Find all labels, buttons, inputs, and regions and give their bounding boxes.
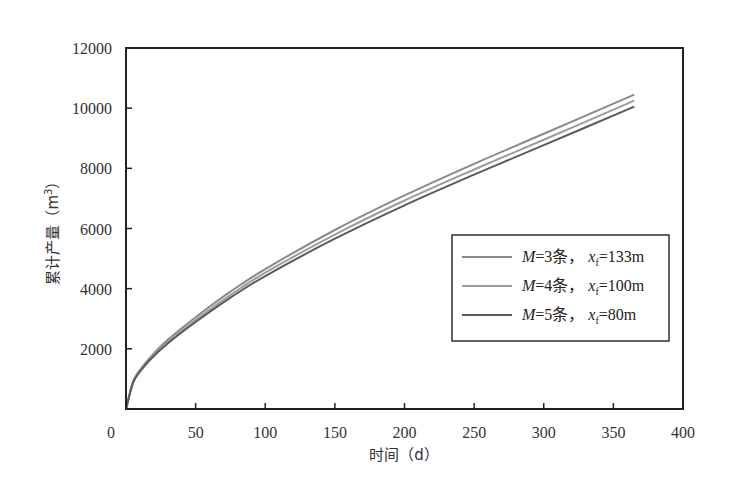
y-tick-label: 6000 <box>80 221 112 238</box>
y-tick-label: 12000 <box>72 40 112 57</box>
x-tick-label: 300 <box>532 424 556 441</box>
x-tick-label: 200 <box>393 424 417 441</box>
plot-frame <box>126 48 683 409</box>
y-tick-label: 2000 <box>80 341 112 358</box>
y-tick-label: 4000 <box>80 281 112 298</box>
x-tick-label: 150 <box>323 424 347 441</box>
y-tick-label: 10000 <box>72 100 112 117</box>
y-axis-title: 累计产量（m3） <box>43 174 62 285</box>
x-tick-label: 250 <box>462 424 486 441</box>
x-tick-labels: 050100150200250300350400 <box>107 424 695 441</box>
x-tick-label: 0 <box>107 424 115 441</box>
cumulative-production-chart: 050100150200250300350400 200040006000800… <box>0 0 729 496</box>
legend: M=3条，xf=133mM=4条，xf=100mM=5条，xf=80m <box>452 235 669 341</box>
x-tick-label: 50 <box>188 424 204 441</box>
y-tick-labels: 20004000600080001000012000 <box>72 40 112 358</box>
x-tick-label: 400 <box>671 424 695 441</box>
x-tick-label: 100 <box>253 424 277 441</box>
x-axis-title: 时间（d） <box>369 446 439 464</box>
x-tick-label: 350 <box>601 424 625 441</box>
y-tick-label: 8000 <box>80 160 112 177</box>
